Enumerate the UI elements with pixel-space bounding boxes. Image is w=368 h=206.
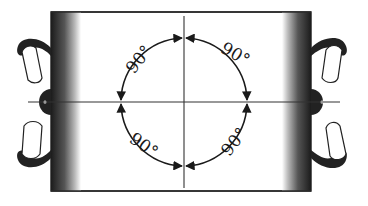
left-roller-bottom: [17, 122, 51, 168]
right-roller-top: [311, 38, 347, 83]
right-roller-bottom: [311, 122, 347, 168]
left-roller-top: [17, 39, 51, 83]
diagram-canvas: 90° 90° 90° 90°: [0, 0, 368, 206]
